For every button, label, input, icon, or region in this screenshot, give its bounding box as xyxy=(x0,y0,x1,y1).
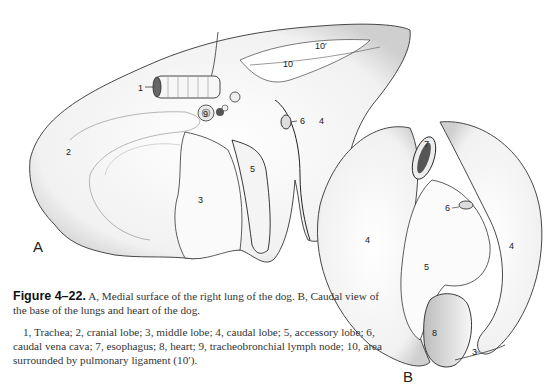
label-esophagus: 7 xyxy=(424,139,429,149)
label-accessory-lobe: 5 xyxy=(250,164,255,174)
label-cranial-lobe: 2 xyxy=(66,147,71,157)
panel-label-a: A xyxy=(33,238,43,255)
label-caudal-lobe-right: 4 xyxy=(509,241,514,251)
label-caudal-vena-cava-b: 6 xyxy=(445,203,450,213)
caption-title-line: Figure 4–22. A, Medial surface of the ri… xyxy=(13,289,383,317)
label-accessory-lobe-b: 5 xyxy=(424,262,429,272)
label-pulmonary-ligament: 10 xyxy=(283,59,293,69)
trachea xyxy=(153,76,220,98)
figure-caption: Figure 4–22. A, Medial surface of the ri… xyxy=(13,289,383,367)
label-caudal-lobe: 4 xyxy=(319,116,324,126)
label-heart: 8 xyxy=(432,328,437,338)
panel-label-b: B xyxy=(403,368,413,385)
label-pulmonary-ligament-area: 10′ xyxy=(315,41,327,51)
label-lymph-node: 9 xyxy=(203,109,208,119)
heart xyxy=(424,294,472,367)
figure-legend: 1, Trachea; 2, cranial lobe; 3, middle l… xyxy=(13,325,383,367)
figure-number: Figure 4–22. xyxy=(13,289,86,303)
label-caudal-vena-cava: 6 xyxy=(300,116,305,126)
label-middle-lobe-b: 3 xyxy=(472,347,477,357)
label-trachea: 1 xyxy=(138,83,143,93)
label-caudal-lobe-left: 4 xyxy=(365,235,370,245)
label-middle-lobe: 3 xyxy=(198,195,203,205)
